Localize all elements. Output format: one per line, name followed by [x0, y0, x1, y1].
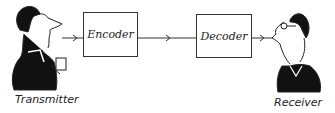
receiver-figure-icon	[272, 14, 321, 92]
receiver-label: Receiver	[274, 96, 322, 109]
arrow-transmitter-encoder-icon	[62, 35, 83, 41]
transmitter-figure-icon	[12, 6, 66, 90]
decoder-label: Decoder	[201, 30, 248, 43]
encoder-box: Encoder	[83, 12, 138, 57]
arrow-decoder-receiver-icon	[252, 35, 272, 41]
encoder-label: Encoder	[87, 28, 134, 41]
decoder-box: Decoder	[196, 14, 252, 58]
arrow-encoder-decoder-icon	[138, 35, 196, 41]
transmitter-label: Transmitter	[15, 93, 79, 106]
